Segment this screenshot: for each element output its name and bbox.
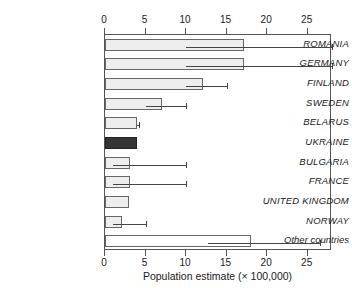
category-label: UKRAINE <box>252 137 352 147</box>
bar <box>105 216 122 228</box>
error-bar <box>146 106 187 107</box>
bar <box>105 157 130 169</box>
category-label: ROMANIA <box>252 39 352 49</box>
category-label: Other countries <box>252 235 352 245</box>
error-bar <box>186 86 227 87</box>
error-bar-cap <box>227 83 228 89</box>
category-label: NORWAY <box>252 216 352 226</box>
error-bar-cap <box>186 181 187 187</box>
category-label: GERMANY <box>252 58 352 68</box>
x-axis-title: Population estimate (× 100,000) <box>104 270 331 282</box>
category-label: SWEDEN <box>252 98 352 108</box>
x-tick-label-bottom: 25 <box>292 257 322 269</box>
error-bar-cap <box>146 221 147 227</box>
x-tick-label-top: 25 <box>292 14 322 26</box>
bar <box>105 196 129 208</box>
error-bar <box>113 165 186 166</box>
category-label: UNITED KINGDOM <box>252 196 352 206</box>
x-tick-label-top: 10 <box>170 14 200 26</box>
category-label: FRANCE <box>252 176 352 186</box>
population-estimate-bar-chart: 0510152025 0510152025 ROMANIAGERMANYFINL… <box>0 0 352 288</box>
x-tick-bottom <box>104 250 105 256</box>
x-tick-label-bottom: 20 <box>251 257 281 269</box>
bar <box>105 58 244 70</box>
error-bar-cap <box>186 162 187 168</box>
error-bar-cap <box>186 103 187 109</box>
x-tick-label-bottom: 0 <box>89 257 119 269</box>
bar <box>105 235 251 247</box>
x-tick-label-bottom: 5 <box>130 257 160 269</box>
error-bar <box>113 224 145 225</box>
error-bar-cap <box>139 122 140 128</box>
bar <box>105 176 130 188</box>
bar <box>105 98 162 110</box>
x-tick-bottom <box>307 250 308 256</box>
category-label: BELARUS <box>252 117 352 127</box>
bar <box>105 117 137 129</box>
error-bar <box>113 184 186 185</box>
x-tick-label-top: 5 <box>130 14 160 26</box>
x-tick-label-top: 0 <box>89 14 119 26</box>
bar <box>105 78 203 90</box>
x-tick-label-top: 15 <box>211 14 241 26</box>
x-tick-label-bottom: 10 <box>170 257 200 269</box>
x-tick-label-bottom: 15 <box>211 257 241 269</box>
x-tick-bottom <box>145 250 146 256</box>
x-tick-label-top: 20 <box>251 14 281 26</box>
bar <box>105 39 244 51</box>
category-label: BULGARIA <box>252 157 352 167</box>
category-label: FINLAND <box>252 78 352 88</box>
x-tick-bottom <box>185 250 186 256</box>
x-tick-bottom <box>266 250 267 256</box>
bar <box>105 137 137 149</box>
x-tick-bottom <box>226 250 227 256</box>
